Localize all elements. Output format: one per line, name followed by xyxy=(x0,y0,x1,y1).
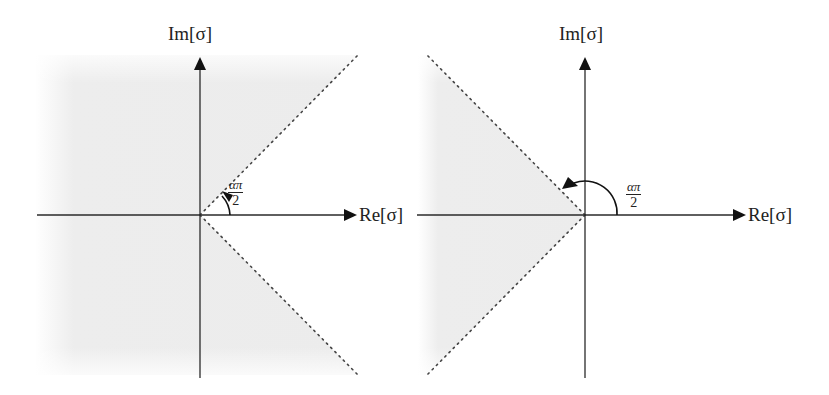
left-imag-axis-label: Im[σ] xyxy=(168,23,212,45)
complex-plane-diagrams xyxy=(0,0,829,395)
left-angle-label: απ 2 xyxy=(228,178,243,208)
right-panel xyxy=(415,50,746,380)
right-angle-label: απ 2 xyxy=(626,180,641,210)
left-panel xyxy=(35,50,365,380)
right-real-axis-arrow-icon xyxy=(733,209,746,221)
left-real-axis-label: Re[σ] xyxy=(359,204,403,226)
right-imag-axis-label: Im[σ] xyxy=(559,23,603,45)
right-real-axis-label: Re[σ] xyxy=(748,204,792,226)
